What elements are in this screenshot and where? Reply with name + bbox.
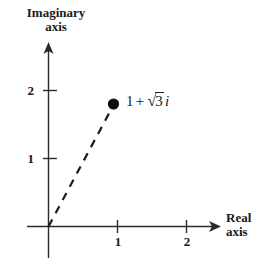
real-axis-title: Real axis — [226, 211, 270, 239]
imaginary-axis-title-line2: axis — [14, 20, 98, 34]
point-label-operator: + — [134, 93, 147, 109]
x-axis-tick-label-1: 1 — [111, 234, 125, 250]
point-label-imaginary-unit: i — [164, 93, 169, 109]
y-axis-tick-label-2: 2 — [20, 83, 34, 99]
y-axis-tick-label-1: 1 — [20, 151, 34, 167]
point-annotation-label: 1+√3i — [126, 92, 169, 110]
imaginary-axis-title: Imaginary axis — [14, 6, 98, 34]
point-label-real-part: 1 — [126, 93, 134, 109]
point-label-radicand: 3 — [155, 92, 164, 110]
real-axis-title-line1: Real — [226, 211, 270, 225]
real-axis-title-line2: axis — [226, 225, 270, 239]
origin-to-point-dashed-segment — [49, 105, 114, 227]
square-root-icon: √3 — [146, 92, 164, 110]
complex-plane-figure: Imaginary axis Real axis 1 2 1 2 1+√3i — [0, 0, 270, 260]
imaginary-axis-title-line1: Imaginary — [14, 6, 98, 20]
plotted-point-marker — [108, 98, 119, 109]
x-axis-tick-label-2: 2 — [180, 234, 194, 250]
